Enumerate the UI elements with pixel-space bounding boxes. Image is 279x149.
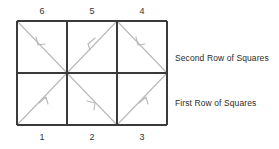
grid-diagram-svg <box>0 0 279 149</box>
diagram-container: 6 5 4 1 2 3 Second Row of Squares First … <box>0 0 279 149</box>
bottom-label-column-2: 3 <box>130 133 154 142</box>
top-label-column-2: 4 <box>130 7 154 16</box>
top-label-column-1: 5 <box>80 7 104 16</box>
bottom-label-column-1: 2 <box>80 133 104 142</box>
top-label-column-0: 6 <box>30 7 54 16</box>
second-row-annotation: Second Row of Squares <box>175 54 269 63</box>
bottom-label-column-0: 1 <box>30 133 54 142</box>
first-row-annotation: First Row of Squares <box>175 99 256 108</box>
